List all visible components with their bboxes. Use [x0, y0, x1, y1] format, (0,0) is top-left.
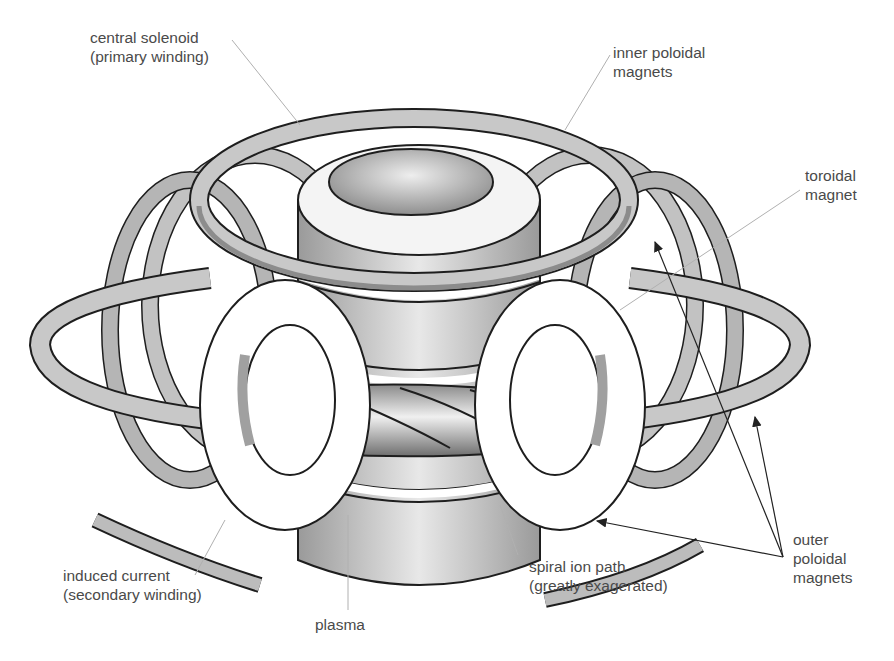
tokamak-illustration	[0, 0, 894, 661]
tokamak-diagram: central solenoid (primary winding) inner…	[0, 0, 894, 661]
label-spiral-ion-path: spiral ion path (greatly exagerated)	[529, 557, 668, 595]
label-toroidal-magnet: toroidal magnet	[805, 166, 857, 204]
label-central-solenoid: central solenoid (primary winding)	[90, 28, 209, 66]
label-induced-current: induced current (secondary winding)	[63, 566, 202, 604]
label-plasma: plasma	[315, 615, 365, 634]
label-outer-poloidal-magnets: outer poloidal magnets	[793, 530, 852, 587]
label-inner-poloidal-magnets: inner poloidal magnets	[613, 43, 705, 81]
